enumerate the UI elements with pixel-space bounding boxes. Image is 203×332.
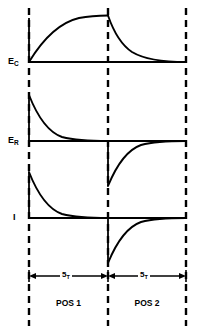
waveform-figure: EC ER I 5T 5T POS 1 POS 2	[0, 0, 203, 332]
i-decay-curve	[29, 172, 108, 218]
ec-charge-curve	[29, 16, 108, 63]
region-label-pos1: POS 1	[29, 299, 108, 308]
dimension-label-2-sub: T	[144, 274, 147, 280]
axis-label-er-sub: R	[14, 139, 19, 146]
er-decay-curve	[29, 95, 108, 141]
dimension-label-1-sub: T	[66, 274, 69, 280]
axis-label-i: I	[13, 213, 16, 222]
axis-label-er: ER	[8, 136, 19, 145]
axis-label-ec: EC	[8, 57, 19, 66]
waveform-svg	[0, 0, 203, 332]
region-label-pos2: POS 2	[108, 299, 186, 308]
dimension-label-2: 5T	[138, 271, 150, 279]
axis-label-ec-sub: C	[14, 60, 19, 67]
i-recovery-curve	[108, 218, 186, 263]
dimension-label-1: 5T	[60, 271, 72, 279]
er-recovery-curve	[108, 141, 186, 186]
ec-discharge-curve	[108, 16, 186, 63]
axis-label-i-main: I	[13, 212, 16, 222]
dimension-arrows	[29, 270, 186, 282]
